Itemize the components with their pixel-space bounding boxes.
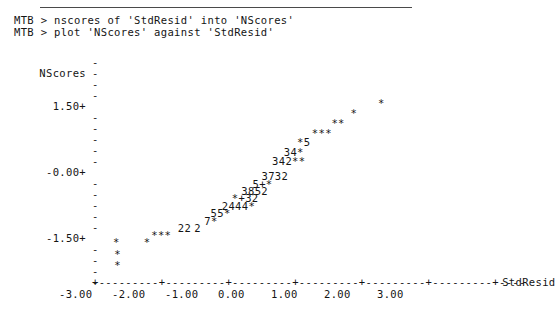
data-point-marker: * bbox=[351, 108, 358, 119]
y-axis-minor-tick: - bbox=[92, 222, 99, 233]
command-line-plot: MTB > plot 'NScores' against 'StdResid' bbox=[14, 26, 274, 38]
x-axis-line: +---------+---------+---------+---------… bbox=[92, 277, 526, 288]
y-axis-tick-label: -1.50+ bbox=[0, 233, 86, 244]
y-axis-title: NScores bbox=[0, 68, 86, 79]
x-axis-tick-label: -1.00 bbox=[165, 289, 198, 300]
x-axis-title: StdResid bbox=[502, 277, 555, 288]
data-point-marker: 342** bbox=[272, 156, 305, 167]
command-line-nscores: MTB > nscores of 'StdResid' into 'NScore… bbox=[14, 14, 294, 26]
data-point-marker: *** bbox=[312, 128, 332, 139]
x-axis-tick-label: 3.00 bbox=[377, 289, 404, 300]
y-axis-tick-label: 1.50+ bbox=[0, 101, 86, 112]
y-axis-minor-tick: - bbox=[92, 90, 99, 101]
data-point-marker: * bbox=[144, 237, 151, 248]
data-point-marker: * bbox=[378, 98, 385, 109]
y-axis-minor-tick: - bbox=[92, 156, 99, 167]
data-point-marker: * bbox=[114, 260, 121, 271]
x-axis-tick-label: -3.00 bbox=[59, 289, 92, 300]
data-point-marker: 22 bbox=[178, 223, 191, 234]
x-axis-tick-label: -2.00 bbox=[112, 289, 145, 300]
data-point-marker: 2 bbox=[194, 223, 201, 234]
data-point-marker: *5 bbox=[297, 137, 310, 148]
data-point-marker: * bbox=[114, 249, 121, 260]
x-axis-tick-label: 1.00 bbox=[271, 289, 298, 300]
data-point-marker: 3732 bbox=[262, 171, 289, 182]
data-point-marker: *** bbox=[151, 230, 171, 241]
y-axis-tick-label: -0.00+ bbox=[0, 167, 86, 178]
x-axis-tick-label: 0.00 bbox=[218, 289, 245, 300]
data-point-marker: ** bbox=[331, 118, 344, 129]
data-point-marker: * bbox=[113, 237, 120, 248]
data-point-marker: 34* bbox=[284, 147, 304, 158]
header-divider-rule bbox=[40, 7, 412, 8]
x-axis-tick-label: 2.00 bbox=[324, 289, 351, 300]
